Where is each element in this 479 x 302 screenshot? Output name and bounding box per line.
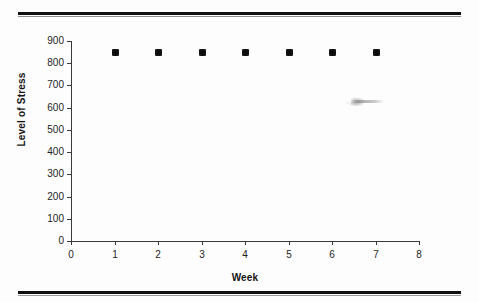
x-axis-tick bbox=[419, 241, 420, 245]
x-axis-tick bbox=[332, 241, 333, 245]
x-axis-tick-label: 5 bbox=[274, 250, 304, 260]
x-axis-tick bbox=[115, 241, 116, 245]
data-point bbox=[372, 48, 379, 55]
x-axis-tick-label: 6 bbox=[317, 250, 347, 260]
data-point bbox=[111, 48, 118, 55]
data-point bbox=[154, 48, 161, 55]
y-axis-tick-label: 900 bbox=[18, 36, 64, 46]
y-axis-line bbox=[71, 41, 72, 242]
page-rule-bottom bbox=[18, 291, 461, 294]
y-axis-tick bbox=[67, 152, 71, 153]
y-axis-tick bbox=[67, 130, 71, 131]
y-axis-title: Level of Stress bbox=[16, 57, 27, 163]
y-axis-tick-label: 100 bbox=[18, 214, 64, 224]
x-axis-tick-label: 8 bbox=[404, 250, 434, 260]
y-axis-tick-label: 300 bbox=[18, 169, 64, 179]
data-point bbox=[241, 48, 248, 55]
x-axis-tick-label: 1 bbox=[100, 250, 130, 260]
data-point bbox=[285, 48, 292, 55]
x-axis-tick bbox=[202, 241, 203, 245]
x-axis-tick bbox=[71, 241, 72, 245]
scanned-page: 0100200300400500600700800900 012345678 L… bbox=[0, 0, 479, 302]
x-axis-tick bbox=[245, 241, 246, 245]
page-rule-bottom-secondary bbox=[18, 295, 461, 296]
x-axis-tick-label: 2 bbox=[143, 250, 173, 260]
y-axis-tick bbox=[67, 63, 71, 64]
y-axis-tick-label: 0 bbox=[18, 236, 64, 246]
x-axis-tick-label: 0 bbox=[56, 250, 86, 260]
scatter-chart: 0100200300400500600700800900 012345678 L… bbox=[0, 0, 479, 302]
data-point bbox=[328, 48, 335, 55]
x-axis-tick bbox=[289, 241, 290, 245]
y-axis-tick bbox=[67, 41, 71, 42]
x-axis-tick-label: 3 bbox=[187, 250, 217, 260]
y-axis-tick bbox=[67, 108, 71, 109]
y-axis-tick bbox=[67, 197, 71, 198]
x-axis-tick-label: 4 bbox=[230, 250, 260, 260]
x-axis-tick bbox=[158, 241, 159, 245]
y-axis-tick bbox=[67, 174, 71, 175]
data-point bbox=[198, 48, 205, 55]
x-axis-tick bbox=[376, 241, 377, 245]
scan-smudge-artifact bbox=[344, 97, 386, 108]
x-axis-title: Week bbox=[71, 272, 419, 283]
y-axis-tick bbox=[67, 85, 71, 86]
y-axis-tick-label: 200 bbox=[18, 192, 64, 202]
x-axis-tick-label: 7 bbox=[361, 250, 391, 260]
y-axis-tick bbox=[67, 219, 71, 220]
